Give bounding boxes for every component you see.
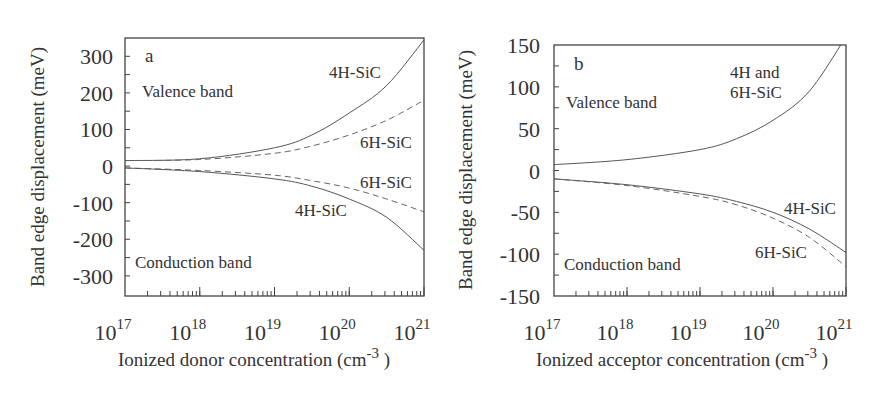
y-tick-label: 100 bbox=[80, 117, 113, 142]
panel-b-cb-6h-label: 6H-SiC bbox=[755, 243, 807, 262]
panel-b-valence-label: Valence band bbox=[566, 93, 658, 112]
panel-a-x-axis-title-sup: -3 bbox=[366, 345, 379, 361]
y-tick-label: -300 bbox=[73, 264, 113, 289]
y-tick-label: 0 bbox=[529, 159, 540, 184]
y-tick-label: -200 bbox=[73, 227, 113, 252]
y-tick-label: 50 bbox=[518, 117, 540, 142]
y-tick-label: 300 bbox=[80, 44, 113, 69]
panel-a-x-axis-title-main: Ionized donor concentration (cm bbox=[118, 349, 367, 371]
band-edge-figure: 3002001000-100-200-300 10171018101910201… bbox=[0, 0, 893, 393]
x-tick-label: 1021 bbox=[816, 316, 853, 345]
panel-a-conduction-label: Conduction band bbox=[135, 253, 252, 272]
panel-a-x-axis-title: Ionized donor concentration (cm-3 ) bbox=[118, 345, 390, 371]
panel-b-letter: b bbox=[574, 53, 584, 74]
panel-b-conduction-label: Conduction band bbox=[564, 255, 681, 274]
x-tick-label: 1017 bbox=[524, 316, 562, 345]
x-tick-label: 1019 bbox=[670, 316, 707, 345]
panel-a-x-tick-labels: 10171018101910201021 bbox=[95, 316, 431, 345]
panel-a-y-axis-title: Band edge displacement (meV) bbox=[27, 47, 49, 287]
panel-a: 3002001000-100-200-300 10171018101910201… bbox=[27, 38, 431, 371]
panel-a-y-tick-labels: 3002001000-100-200-300 bbox=[73, 44, 113, 289]
panel-a-x-axis-title-close: ) bbox=[379, 349, 390, 371]
y-tick-label: -150 bbox=[500, 284, 540, 309]
y-tick-label: -100 bbox=[500, 242, 540, 267]
y-tick-label: -50 bbox=[511, 200, 540, 225]
panel-b-x-axis-title-main: Ionized acceptor concentration (cm bbox=[536, 349, 805, 371]
panel-a-valence-label: Valence band bbox=[142, 82, 234, 101]
panel-a-vb-4h-label: 4H-SiC bbox=[329, 63, 381, 82]
panel-b-curves bbox=[554, 37, 846, 267]
y-tick-label: 150 bbox=[507, 33, 540, 58]
panel-b-cb-4h-label: 4H-SiC bbox=[784, 199, 836, 218]
y-tick-label: -100 bbox=[73, 191, 113, 216]
panel-b-x-axis-title: Ionized acceptor concentration (cm-3 ) bbox=[536, 345, 828, 371]
panel-a-cb-4h-label: 4H-SiC bbox=[295, 201, 347, 220]
x-tick-label: 1017 bbox=[95, 316, 133, 345]
x-tick-label: 1020 bbox=[319, 316, 356, 345]
x-tick-label: 1018 bbox=[169, 316, 206, 345]
panel-b: 150100500-50-100-150 1017101810191020102… bbox=[455, 33, 853, 371]
panel-b-x-tick-labels: 10171018101910201021 bbox=[524, 316, 853, 345]
panel-b-vb-label-line2: 6H-SiC bbox=[730, 83, 782, 102]
x-tick-label: 1021 bbox=[394, 316, 431, 345]
y-tick-label: 100 bbox=[507, 75, 540, 100]
panel-b-x-axis-title-sup: -3 bbox=[805, 345, 818, 361]
panel-b-vb-label-line1: 4H and bbox=[730, 63, 780, 82]
panel-b-y-axis-title: Band edge displacement (meV) bbox=[455, 50, 477, 290]
panel-b-x-axis-title-close: ) bbox=[817, 349, 828, 371]
x-tick-label: 1019 bbox=[244, 316, 281, 345]
panel-a-vb-6h-label: 6H-SiC bbox=[360, 133, 412, 152]
y-tick-label: 200 bbox=[80, 81, 113, 106]
x-tick-label: 1018 bbox=[597, 316, 634, 345]
x-tick-label: 1020 bbox=[743, 316, 780, 345]
panel-a-letter: a bbox=[145, 45, 154, 66]
y-tick-label: 0 bbox=[102, 154, 113, 179]
panel-a-cb-6h-label: 6H-SiC bbox=[360, 173, 412, 192]
panel-b-y-tick-labels: 150100500-50-100-150 bbox=[500, 33, 540, 309]
